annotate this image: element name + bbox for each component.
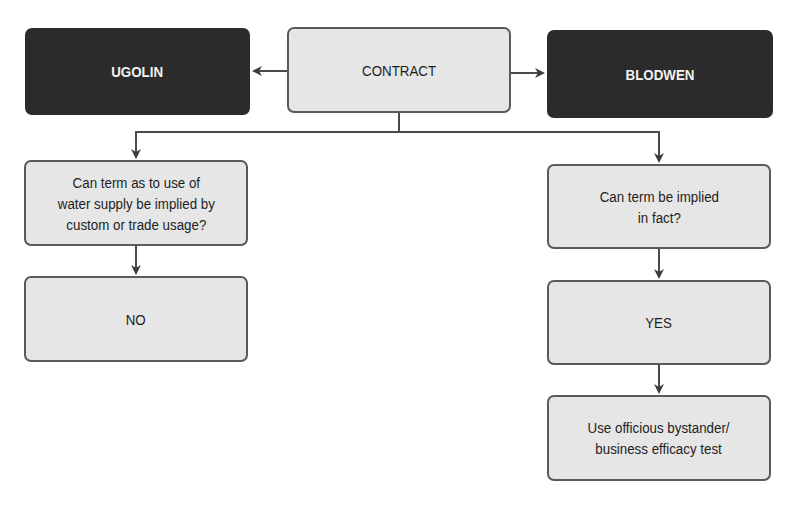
party-label-blodwen: BLODWEN — [626, 64, 695, 85]
question-line: water supply be implied by — [57, 193, 214, 214]
answer-no-label: NO — [126, 309, 146, 330]
question-line: in fact? — [599, 207, 718, 228]
contract-label: CONTRACT — [362, 60, 436, 81]
party-box-blodwen: BLODWEN — [547, 30, 773, 118]
contract-box: CONTRACT — [287, 27, 511, 113]
implied-in-fact-question-box: Can term be implied in fact? — [547, 164, 771, 249]
question-line: Can term be implied — [599, 186, 718, 207]
party-label-ugolin: UGOLIN — [112, 61, 164, 82]
outcome-line: Use officious bystander/ — [588, 417, 730, 438]
answer-no-box: NO — [24, 276, 248, 362]
answer-yes-box: YES — [547, 280, 771, 365]
outcome-test-box: Use officious bystander/ business effica… — [547, 395, 771, 481]
question-line: custom or trade usage? — [57, 214, 214, 235]
answer-yes-label: YES — [646, 312, 673, 333]
party-box-ugolin: UGOLIN — [25, 28, 250, 115]
custom-usage-question-box: Can term as to use of water supply be im… — [24, 160, 248, 246]
question-line: Can term as to use of — [57, 172, 214, 193]
outcome-line: business efficacy test — [588, 438, 730, 459]
